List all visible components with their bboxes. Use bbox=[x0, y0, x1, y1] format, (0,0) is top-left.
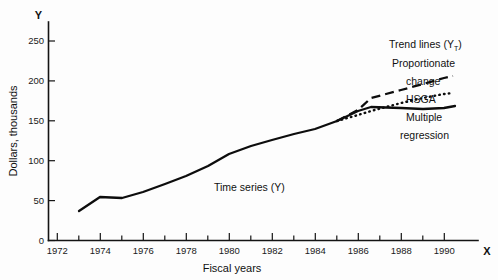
y-axis-ticks bbox=[49, 41, 56, 241]
series-time-series bbox=[79, 121, 337, 211]
y-tick-label-150: 150 bbox=[28, 115, 44, 126]
y-axis-title: Dollars, thousands bbox=[7, 85, 19, 177]
x-tick-label-1980: 1980 bbox=[219, 245, 240, 256]
annotation-hsga: HSGA bbox=[406, 93, 436, 105]
x-tick-label-1988: 1988 bbox=[391, 245, 412, 256]
annotation-regression: regression bbox=[400, 129, 449, 141]
annotation-multiple: Multiple bbox=[406, 111, 442, 123]
x-tick-label-1982: 1982 bbox=[262, 245, 283, 256]
x-axis-tick-labels: 1972 1974 1976 1978 1980 1982 1984 1986 … bbox=[47, 245, 455, 256]
y-tick-label-100: 100 bbox=[28, 155, 44, 166]
annotation-proportionate: Proportionate bbox=[392, 57, 455, 69]
y-tick-label-0: 0 bbox=[39, 235, 44, 246]
x-tick-label-1972: 1972 bbox=[47, 245, 68, 256]
chart-figure: 0 50 100 150 200 250 Y Dollars, thousand… bbox=[0, 0, 498, 280]
y-tick-label-50: 50 bbox=[33, 195, 44, 206]
x-axis-title: Fiscal years bbox=[203, 262, 262, 274]
y-tick-label-200: 200 bbox=[28, 75, 44, 86]
y-axis-tick-labels: 0 50 100 150 200 250 bbox=[28, 35, 44, 246]
x-tick-label-1976: 1976 bbox=[133, 245, 154, 256]
line-chart: 0 50 100 150 200 250 Y Dollars, thousand… bbox=[0, 0, 498, 280]
y-axis-letter: Y bbox=[35, 9, 43, 21]
annotation-time-series: Time series (Y) bbox=[214, 181, 285, 193]
x-axis-letter: X bbox=[483, 245, 491, 257]
annotation-change: change bbox=[406, 75, 441, 87]
x-tick-label-1990: 1990 bbox=[434, 245, 455, 256]
annotation-trend-lines: Trend lines (YT) bbox=[389, 38, 462, 52]
x-tick-label-1974: 1974 bbox=[90, 245, 111, 256]
annotation-trend-lines-suffix: ) bbox=[458, 38, 462, 50]
x-tick-label-1986: 1986 bbox=[348, 245, 369, 256]
annotations-group: Time series (Y) Trend lines (YT) Proport… bbox=[214, 38, 462, 193]
x-tick-label-1984: 1984 bbox=[305, 245, 326, 256]
x-tick-label-1978: 1978 bbox=[176, 245, 197, 256]
annotation-trend-lines-text: Trend lines (Y bbox=[389, 38, 454, 50]
y-tick-label-250: 250 bbox=[28, 35, 44, 46]
